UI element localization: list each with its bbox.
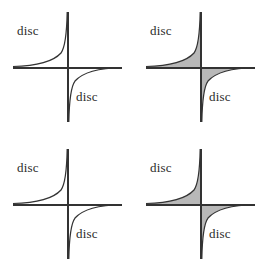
panel-bottom-left-canvas — [0, 137, 133, 273]
panel-label-lower-right: disc — [209, 90, 231, 103]
panel-top-right: disc disc — [133, 0, 266, 136]
panel-top-left-canvas — [0, 0, 133, 136]
curve-upper-left-branch — [13, 12, 67, 67]
panel-label-upper-left: disc — [17, 24, 39, 37]
panel-label-upper-left: disc — [17, 161, 39, 174]
panel-bottom-right: disc disc — [133, 137, 266, 273]
panel-bottom-left: disc disc — [0, 137, 133, 273]
curve-upper-left-branch — [13, 149, 67, 204]
panel-top-right-canvas — [133, 0, 266, 136]
panel-label-lower-right: disc — [76, 90, 98, 103]
panel-label-upper-left: disc — [150, 161, 172, 174]
hatching-upper-left — [146, 10, 200, 69]
panel-label-lower-right: disc — [209, 227, 231, 240]
figure-container: disc disc — [0, 0, 267, 273]
panel-bottom-right-canvas — [133, 137, 266, 273]
hatching-upper-left — [146, 147, 200, 206]
panel-top-left: disc disc — [0, 0, 133, 136]
panel-label-lower-right: disc — [76, 227, 98, 240]
panel-label-upper-left: disc — [150, 24, 172, 37]
